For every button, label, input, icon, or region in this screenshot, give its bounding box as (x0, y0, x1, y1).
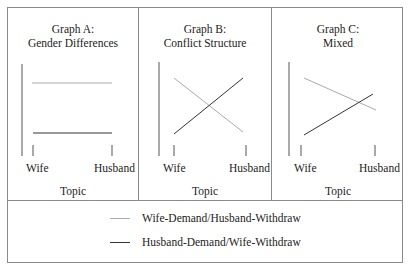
legend-item-wife-demand: Wife-Demand/Husband-Withdraw (110, 212, 301, 224)
legend-label: Husband-Demand/Wife-Withdraw (142, 236, 301, 248)
legend-swatch-light (110, 218, 130, 219)
legend-label: Wife-Demand/Husband-Withdraw (142, 212, 301, 224)
plot-lines (0, 0, 410, 268)
series-wife-demand (304, 78, 376, 110)
legend-item-husband-demand: Husband-Demand/Wife-Withdraw (110, 236, 301, 248)
legend-swatch-dark (110, 242, 130, 243)
series-husband-demand (304, 94, 373, 135)
